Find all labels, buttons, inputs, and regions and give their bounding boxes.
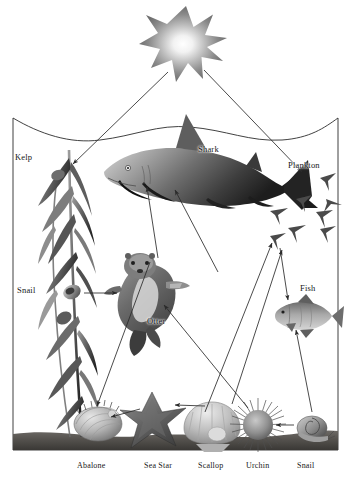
sun-icon: [139, 6, 227, 82]
shark-organism: [104, 114, 318, 210]
energy-flow-arrows: [73, 70, 312, 425]
arrow-snailfloor-to-fish: [296, 330, 312, 412]
snail-floor-organism: [297, 416, 335, 442]
food-web-canvas: [0, 0, 353, 480]
sea-floor: [13, 430, 338, 450]
arrow-plankton-to-fish: [280, 248, 288, 300]
otter-organism: [104, 253, 190, 356]
fish-organism: [275, 294, 344, 338]
arrow-urchin-to-plankton: [232, 250, 282, 404]
arrow-otter-to-shark: [147, 187, 158, 258]
food-web-figure: Kelp Snail Shark Plankton Otter Fish Aba…: [0, 0, 353, 480]
arrow-scallop-to-plankton: [205, 243, 272, 412]
